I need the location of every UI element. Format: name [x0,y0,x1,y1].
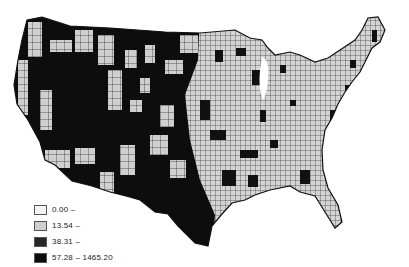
legend-label: 38.31 – [52,237,80,246]
legend-label: 57.28 – 1465.20 [52,253,113,262]
legend-swatch [34,237,47,247]
legend-label: 0.00 – [52,205,75,214]
legend-item: 38.31 – [34,234,113,249]
legend-swatch [34,253,47,263]
legend-swatch [34,205,47,215]
legend-item: 13.54 – [34,218,113,233]
legend-label: 13.54 – [52,221,80,230]
map-legend: 0.00 – 13.54 – 38.31 – 57.28 – 1465.20 [34,202,113,266]
legend-item: 57.28 – 1465.20 [34,250,113,265]
legend-item: 0.00 – [34,202,113,217]
legend-swatch [34,221,47,231]
